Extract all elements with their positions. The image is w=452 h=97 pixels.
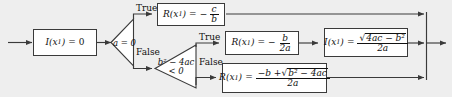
linear-root-box: R(x1)=−cb xyxy=(157,3,225,26)
decision-disc-false-path xyxy=(196,78,216,86)
real-root-box: R(x1)=−b +√b² − 4ac2a xyxy=(222,63,327,93)
imag-part-complex-box: I(x1)=√4ac − b²2a xyxy=(324,28,408,57)
init-box: I(x1)=0 xyxy=(33,29,97,56)
decision-disc-true-label: True xyxy=(199,32,220,42)
real-root-fraction: −b +√b² − 4ac2a xyxy=(256,68,330,88)
decision-disc-true-path xyxy=(196,43,219,47)
decision-disc-false-label: False xyxy=(199,57,223,67)
imag-part-numerator: √4ac − b² xyxy=(357,33,408,44)
real-part-complex-equation: R(x1)=−b2a xyxy=(231,34,292,53)
real-root-equation: R(x1)=−b +√b² − 4ac2a xyxy=(219,68,330,88)
decision-a-false-path xyxy=(134,66,153,69)
decision-discriminant-label: b² − 4ac < 0 xyxy=(157,58,195,75)
real-part-complex-fraction: b2a xyxy=(278,34,293,53)
init-equation: I(x1)=0 xyxy=(45,38,84,47)
decision-a-false-label: False xyxy=(136,47,160,57)
real-part-complex-box: R(x1)=−b2a xyxy=(225,31,299,55)
linear-root-fraction: cb xyxy=(209,5,219,24)
flowchart-diagram: I(x1)=0 R(x1)=−cb R(x1)=−b2a I(x1)=√4ac … xyxy=(0,0,452,97)
discriminant-comparison: < 0 xyxy=(157,67,195,76)
decision-a-label: a = 0 xyxy=(113,38,135,48)
decision-a-true-path xyxy=(134,14,153,19)
imag-part-complex-equation: I(x1)=√4ac − b²2a xyxy=(324,33,408,53)
imag-part-complex-fraction: √4ac − b²2a xyxy=(357,33,408,53)
linear-root-equation: R(x1)=−cb xyxy=(163,5,219,24)
decision-a-true-label: True xyxy=(136,3,157,13)
